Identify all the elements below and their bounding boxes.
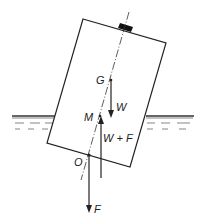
force-f-arrow: [86, 155, 92, 213]
point-g: [110, 79, 113, 82]
label-o: O: [74, 156, 83, 168]
label-f: F: [94, 203, 102, 215]
water-surface-left: [12, 116, 56, 129]
label-w: W: [116, 101, 128, 113]
floating-body: [47, 19, 166, 167]
label-m: M: [84, 111, 94, 123]
point-m: [99, 115, 102, 118]
water-surface-right: [146, 116, 194, 129]
label-g: G: [96, 74, 105, 86]
label-w-plus-f: W + F: [103, 132, 134, 144]
point-o: [87, 153, 90, 156]
floating-body-diagram: G W M W + F O F: [0, 0, 202, 221]
